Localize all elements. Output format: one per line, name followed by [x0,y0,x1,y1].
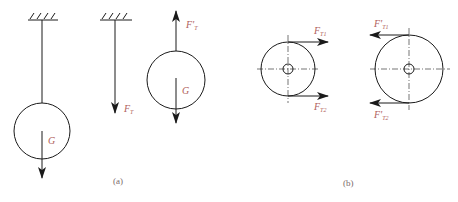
figure-b: FT1 FT2 F'T1 F'T2 (b) [257,18,450,188]
rope-tension-label: FT [123,103,134,115]
figure-a: G FT F'T G (a) [14,11,205,186]
left-pulley: FT1 FT2 [257,25,328,113]
bottom-force-label: F'T2 [373,109,389,121]
weight-label: G [48,135,55,146]
ball-free-body: F'T G [147,11,205,123]
force-diagram: G FT F'T G (a) [0,0,458,202]
weight-label: G [182,85,189,96]
top-force-label: F'T1 [373,18,389,30]
ceiling-support-icon [100,13,132,20]
right-pulley: F'T1 F'T2 [370,18,450,121]
top-force-label: FT1 [313,25,326,37]
tension-label: F'T [185,19,198,31]
rope-free-body: FT [100,13,134,115]
caption-b: (b) [343,178,354,188]
hanging-ball-assembly: G [14,13,70,178]
bottom-force-label: FT2 [313,101,326,113]
caption-a: (a) [113,176,123,186]
ceiling-support-icon [28,13,58,20]
